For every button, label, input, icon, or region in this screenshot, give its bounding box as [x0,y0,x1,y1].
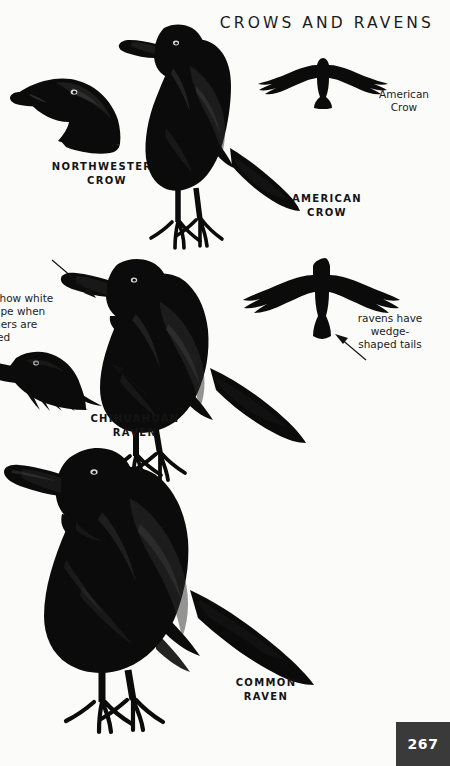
leader-arrow-nape [104,358,152,398]
page-number: 267 [407,736,438,752]
american-crow-perched-illustration [118,8,308,283]
species-label-northwestern-crow: NORTHWESTERN CROW [32,160,182,187]
flight-label-american-crow: American Crow [362,88,446,114]
page-number-block: 267 [396,722,450,766]
field-guide-plate: CROWS AND RAVENS NORTHWESTERN CROW [0,0,450,766]
species-label-chihuahuan-raven: CHIHUAHUAN RAVEN [60,412,210,439]
species-label-common-raven: COMMON RAVEN [200,676,332,703]
callout-wedge-tail: ravens have wedge- shaped tails [340,312,440,351]
chihuahuan-raven-perched-illustration [60,250,320,490]
northwestern-crow-head-illustration [10,48,150,158]
raven-head-ruffled-illustration [0,344,122,412]
callout-white-napes: show white ape when hers are led [0,292,90,344]
page-title: CROWS AND RAVENS [220,14,434,32]
species-label-american-crow: AMERICAN CROW [272,192,382,219]
